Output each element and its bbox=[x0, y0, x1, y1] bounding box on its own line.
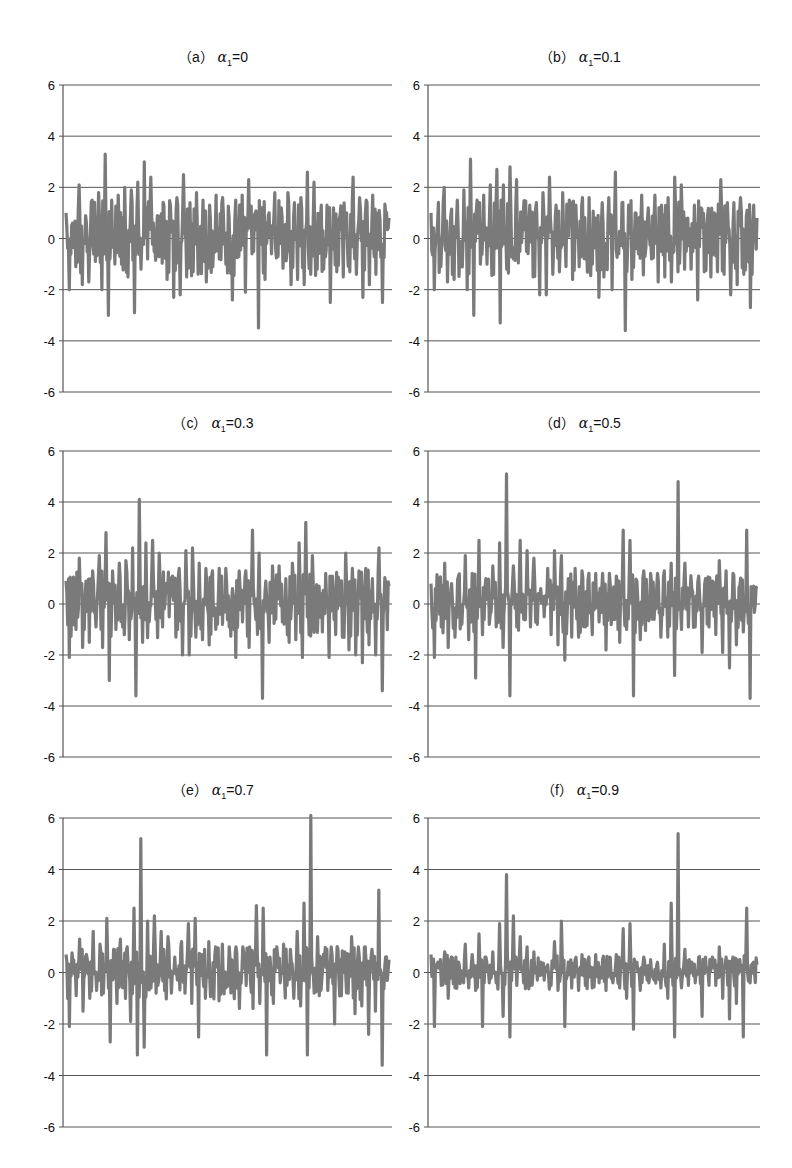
y-tick-label: -6 bbox=[408, 750, 420, 765]
y-tick-label: 4 bbox=[48, 129, 55, 144]
y-tick-label: -4 bbox=[43, 1069, 55, 1084]
chart-e: -6-4-20246 bbox=[0, 0, 792, 1168]
y-tick-label: 0 bbox=[48, 966, 55, 981]
panel-title: （d） α1=0.5 bbox=[539, 412, 621, 434]
series-line bbox=[431, 474, 757, 698]
series-line bbox=[66, 154, 389, 328]
y-tick-label: -2 bbox=[408, 1017, 420, 1032]
y-tick-label: 0 bbox=[413, 232, 420, 247]
y-tick-label: 2 bbox=[48, 914, 55, 929]
y-tick-label: -2 bbox=[408, 283, 420, 298]
alpha-symbol: α bbox=[218, 49, 227, 65]
chart-d: -6-4-20246 bbox=[0, 0, 792, 1168]
series-line bbox=[431, 834, 757, 1037]
y-tick-label: 6 bbox=[48, 78, 55, 93]
series-line bbox=[66, 499, 389, 698]
chart-a: -6-4-20246 bbox=[0, 0, 792, 1168]
y-tick-label: -6 bbox=[43, 385, 55, 400]
y-tick-label: 0 bbox=[413, 597, 420, 612]
y-tick-label: 4 bbox=[413, 863, 420, 878]
y-tick-label: 6 bbox=[48, 811, 55, 826]
y-tick-label: 2 bbox=[413, 546, 420, 561]
alpha-value: =0.3 bbox=[226, 415, 254, 431]
panel-label: （a） bbox=[178, 49, 214, 65]
y-tick-label: 0 bbox=[413, 966, 420, 981]
y-tick-label: 0 bbox=[48, 597, 55, 612]
y-tick-label: 6 bbox=[413, 444, 420, 459]
panel-label: （c） bbox=[172, 415, 207, 431]
panel-title: （c） α1=0.3 bbox=[172, 412, 253, 434]
y-tick-label: 2 bbox=[413, 914, 420, 929]
y-tick-label: 4 bbox=[413, 129, 420, 144]
y-tick-label: -4 bbox=[408, 334, 420, 349]
alpha-value: =0.9 bbox=[591, 782, 619, 798]
panel-label: （e） bbox=[172, 782, 208, 798]
y-tick-label: -6 bbox=[408, 385, 420, 400]
y-tick-label: -2 bbox=[43, 648, 55, 663]
alpha-value: =0.5 bbox=[593, 415, 621, 431]
y-tick-label: 6 bbox=[413, 78, 420, 93]
alpha-symbol: α bbox=[212, 782, 221, 798]
alpha-symbol: α bbox=[577, 782, 586, 798]
alpha-value: =0 bbox=[232, 49, 248, 65]
y-tick-label: 2 bbox=[48, 546, 55, 561]
panel-title: （f） α1=0.9 bbox=[541, 779, 619, 801]
y-tick-label: 4 bbox=[48, 495, 55, 510]
y-tick-label: 2 bbox=[48, 180, 55, 195]
panel-label: （f） bbox=[541, 782, 573, 798]
panel-title: （a） α1=0 bbox=[178, 46, 248, 68]
y-tick-label: 2 bbox=[413, 180, 420, 195]
panel-title: （e） α1=0.7 bbox=[172, 779, 254, 801]
y-tick-label: -6 bbox=[408, 1120, 420, 1135]
series-line bbox=[431, 159, 757, 330]
panel-label: （b） bbox=[539, 49, 575, 65]
y-tick-label: -2 bbox=[43, 283, 55, 298]
series-line bbox=[66, 815, 389, 1065]
y-tick-label: 6 bbox=[413, 811, 420, 826]
panel-title: （b） α1=0.1 bbox=[539, 46, 621, 68]
alpha-symbol: α bbox=[579, 49, 588, 65]
y-tick-label: -4 bbox=[408, 699, 420, 714]
y-tick-label: -4 bbox=[43, 699, 55, 714]
chart-b: -6-4-20246 bbox=[0, 0, 792, 1168]
y-tick-label: -6 bbox=[43, 1120, 55, 1135]
alpha-symbol: α bbox=[579, 415, 588, 431]
y-tick-label: -2 bbox=[408, 648, 420, 663]
panel-label: （d） bbox=[539, 415, 575, 431]
chart-c: -6-4-20246 bbox=[0, 0, 792, 1168]
y-tick-label: -4 bbox=[408, 1069, 420, 1084]
y-tick-label: -4 bbox=[43, 334, 55, 349]
chart-f: -6-4-20246 bbox=[0, 0, 792, 1168]
alpha-value: =0.7 bbox=[226, 782, 254, 798]
y-tick-label: 6 bbox=[48, 444, 55, 459]
alpha-symbol: α bbox=[211, 415, 220, 431]
y-tick-label: 0 bbox=[48, 232, 55, 247]
y-tick-label: 4 bbox=[413, 495, 420, 510]
y-tick-label: 4 bbox=[48, 863, 55, 878]
y-tick-label: -2 bbox=[43, 1017, 55, 1032]
alpha-value: =0.1 bbox=[593, 49, 621, 65]
y-tick-label: -6 bbox=[43, 750, 55, 765]
